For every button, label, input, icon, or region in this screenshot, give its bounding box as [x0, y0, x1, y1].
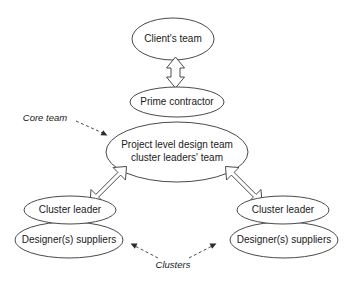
node-designers-suppliers-left[interactable]: Designer(s) suppliers	[15, 222, 123, 258]
connector-core-to-left-cluster-arrow	[90, 167, 127, 204]
connector-core-to-right-cluster-arrow	[226, 167, 263, 204]
clusters-dashed-line-right	[189, 245, 214, 258]
clusters-dashed-line-left	[133, 245, 158, 258]
node-designers-suppliers-right[interactable]: Designer(s) suppliers	[230, 222, 338, 258]
cluster-group-right: Designer(s) suppliers Cluster leader	[230, 196, 338, 258]
node-client-team[interactable]: Client's team	[132, 18, 214, 60]
org-structure-diagram: Client's team Prime contractor Project l…	[0, 0, 351, 281]
core-team-annotation-label: Core team	[23, 112, 67, 123]
double-headed-vertical-arrow-icon	[167, 57, 185, 88]
core-team-dashed-line	[76, 121, 105, 134]
diagram-canvas: Client's team Prime contractor Project l…	[0, 0, 351, 281]
clusters-arrowhead-right-icon	[210, 244, 217, 249]
annotation-clusters: Clusters	[131, 244, 217, 270]
cluster-leader-left-label: Cluster leader	[39, 204, 102, 215]
connector-client-to-prime-arrow	[167, 57, 185, 88]
node-cluster-leader-right[interactable]: Cluster leader	[237, 196, 329, 224]
double-headed-diagonal-arrow-left-icon	[90, 167, 127, 204]
designers-suppliers-right-label: Designer(s) suppliers	[237, 234, 331, 245]
prime-contractor-label: Prime contractor	[140, 96, 214, 107]
designers-suppliers-left-label: Designer(s) suppliers	[22, 234, 116, 245]
cluster-leader-right-label: Cluster leader	[252, 204, 315, 215]
core-team-label-line2: cluster leaders' team	[131, 152, 223, 163]
core-team-label-line1: Project level design team	[121, 139, 233, 150]
node-prime-contractor[interactable]: Prime contractor	[130, 87, 224, 117]
double-headed-diagonal-arrow-right-icon	[226, 167, 263, 204]
annotation-core-team: Core team	[23, 112, 108, 136]
clusters-annotation-label: Clusters	[156, 259, 191, 270]
clusters-arrowhead-left-icon	[131, 244, 138, 249]
node-cluster-leader-left[interactable]: Cluster leader	[24, 196, 116, 224]
client-team-label: Client's team	[144, 33, 202, 44]
cluster-group-left: Designer(s) suppliers Cluster leader	[15, 196, 123, 258]
